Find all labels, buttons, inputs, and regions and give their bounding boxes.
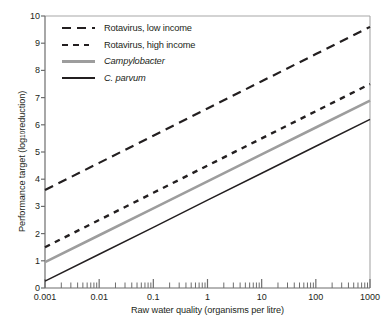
y-axis-title-text: Performance target (log	[17, 138, 27, 232]
legend-swatch-icon	[62, 23, 95, 33]
legend-item-label: Campylobacter	[104, 56, 165, 66]
x-axis-title: Raw water quality (organisms per litre)	[45, 305, 370, 315]
y-axis-title-tail: reduction)	[17, 91, 27, 131]
legend-swatch-icon	[62, 40, 95, 50]
y-axis-title: Performance target (log10 reduction)	[14, 0, 30, 323]
x-tick-label: 0.1	[147, 292, 160, 302]
y-axis-title-subscript: 10	[19, 131, 26, 138]
legend-item-1: Rotavirus, low income	[62, 20, 252, 37]
x-tick-label: 1	[205, 292, 210, 302]
x-tick-label: 10	[257, 292, 267, 302]
legend-item-label: Rotavirus, high income	[104, 40, 195, 50]
legend-item-4: C. parvum	[62, 70, 252, 87]
legend-swatch-icon	[62, 73, 95, 83]
series-line-3	[45, 101, 370, 263]
x-axis-minor-ticks	[61, 283, 367, 289]
legend-item-label: C. parvum	[104, 73, 146, 83]
legend-item-label: Rotavirus, low income	[104, 23, 192, 33]
series-line-4	[45, 119, 370, 281]
chart-legend: Rotavirus, low incomeRotavirus, high inc…	[62, 20, 252, 86]
x-tick-label: 100	[308, 292, 323, 302]
legend-item-3: Campylobacter	[62, 53, 252, 70]
chart-figure: 012345678910 0.0010.010.11101001000 Perf…	[0, 0, 390, 323]
legend-swatch-icon	[62, 56, 95, 66]
x-tick-label: 0.001	[34, 292, 57, 302]
x-tick-label: 1000	[360, 292, 380, 302]
x-tick-label: 0.01	[90, 292, 108, 302]
legend-item-2: Rotavirus, high income	[62, 37, 252, 54]
